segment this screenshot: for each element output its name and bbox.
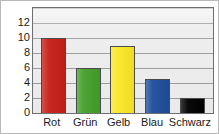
bar-slot [106, 8, 141, 113]
bar-chart-figure: 024681012 RotGrünGelbBlauSchwarz [0, 0, 219, 134]
bar-schwarz[interactable] [180, 98, 205, 113]
x-tick-label: Gelb [102, 115, 135, 129]
y-tick-label: 12 [4, 17, 30, 28]
x-axis: RotGrünGelbBlauSchwarz [32, 115, 214, 133]
x-tick-label: Schwarz [169, 115, 211, 129]
bar-slot [36, 8, 71, 113]
y-tick-label: 8 [4, 47, 30, 58]
bar-rot[interactable] [41, 38, 66, 113]
y-tick-label: 2 [4, 92, 30, 103]
plot-area [32, 7, 214, 114]
y-tick-label: 4 [4, 77, 30, 88]
bar-gelb[interactable] [110, 46, 135, 114]
bars-group [33, 8, 213, 113]
x-tick-label: Blau [135, 115, 168, 129]
x-tick-label: Rot [35, 115, 68, 129]
bar-slot [140, 8, 175, 113]
bar-slot [175, 8, 210, 113]
bar-slot [71, 8, 106, 113]
x-tick-label: Grün [68, 115, 101, 129]
y-tick-label: 6 [4, 62, 30, 73]
y-axis: 024681012 [1, 7, 30, 114]
bar-blau[interactable] [145, 79, 170, 113]
y-tick-label: 10 [4, 32, 30, 43]
y-tick-label: 0 [4, 107, 30, 118]
bar-grün[interactable] [76, 68, 101, 113]
